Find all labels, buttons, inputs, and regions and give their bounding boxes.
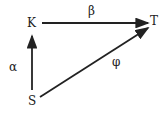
node-t: T <box>150 15 158 27</box>
diagram-arrows <box>0 0 167 114</box>
label-alpha: α <box>9 61 17 73</box>
label-beta: β <box>88 5 95 17</box>
node-s: S <box>28 95 36 107</box>
arrow-phi <box>40 28 148 97</box>
label-phi: φ <box>112 56 120 68</box>
node-k: K <box>27 17 36 29</box>
